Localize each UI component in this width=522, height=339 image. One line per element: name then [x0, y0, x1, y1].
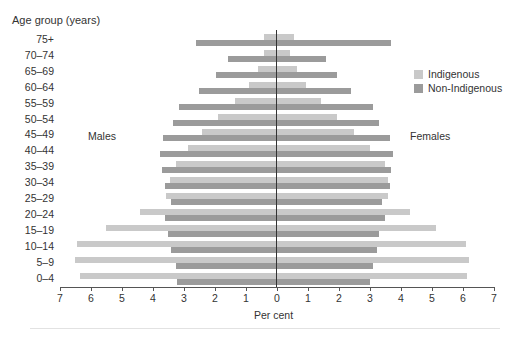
x-tick	[463, 287, 464, 291]
age-label: 50–54	[8, 113, 54, 125]
age-label: 5–9	[8, 256, 54, 268]
bar-female-non-indigenous	[277, 104, 373, 110]
x-tick	[215, 287, 216, 291]
age-label: 30–34	[8, 176, 54, 188]
x-tick-label: 4	[391, 292, 411, 304]
legend: Indigenous Non-Indigenous	[414, 67, 502, 95]
x-tick-label: 5	[112, 292, 132, 304]
bar-female-non-indigenous	[277, 263, 373, 269]
bar-female-non-indigenous	[277, 215, 386, 221]
x-tick-label: 1	[298, 292, 318, 304]
x-tick	[370, 287, 371, 291]
bar-male-non-indigenous	[171, 199, 276, 205]
bar-male-non-indigenous	[179, 104, 277, 110]
bar-female-non-indigenous	[277, 40, 392, 46]
center-axis-line	[276, 30, 277, 288]
females-label: Females	[410, 130, 450, 142]
bar-male-non-indigenous	[173, 120, 277, 126]
age-label: 60–64	[8, 81, 54, 93]
x-tick	[432, 287, 433, 291]
indigenous-swatch-icon	[414, 70, 423, 79]
bar-male-non-indigenous	[168, 231, 277, 237]
x-tick	[308, 287, 309, 291]
age-label: 40–44	[8, 144, 54, 156]
x-tick	[277, 287, 278, 291]
bar-male-non-indigenous	[171, 247, 276, 253]
x-tick-label: 3	[360, 292, 380, 304]
bar-female-non-indigenous	[277, 231, 379, 237]
age-label: 65–69	[8, 65, 54, 77]
bar-male-non-indigenous	[160, 151, 276, 157]
x-tick	[494, 287, 495, 291]
bar-female-non-indigenous	[277, 279, 370, 285]
legend-item-non-indigenous: Non-Indigenous	[414, 81, 502, 95]
age-label: 15–19	[8, 224, 54, 236]
bottom-rule	[30, 328, 500, 329]
bar-female-non-indigenous	[277, 151, 393, 157]
bar-male-non-indigenous	[199, 88, 277, 94]
x-tick	[60, 287, 61, 291]
bar-male-non-indigenous	[165, 215, 277, 221]
bar-female-non-indigenous	[277, 72, 337, 78]
x-tick-label: 2	[329, 292, 349, 304]
age-label: 45–49	[8, 128, 54, 140]
bar-female-non-indigenous	[277, 183, 390, 189]
bar-male-non-indigenous	[216, 72, 276, 78]
legend-label-non-indigenous: Non-Indigenous	[428, 82, 502, 94]
x-tick-label: 6	[81, 292, 101, 304]
age-label: 55–59	[8, 97, 54, 109]
x-tick-label: 7	[484, 292, 504, 304]
age-label: 20–24	[8, 208, 54, 220]
bar-male-non-indigenous	[162, 167, 277, 173]
age-label: 70–74	[8, 49, 54, 61]
x-tick-label: 6	[453, 292, 473, 304]
males-label: Males	[88, 130, 116, 142]
age-label: 25–29	[8, 192, 54, 204]
bar-male-non-indigenous	[176, 263, 277, 269]
bar-male-non-indigenous	[165, 183, 277, 189]
bar-female-non-indigenous	[277, 56, 327, 62]
x-tick-label: 3	[174, 292, 194, 304]
x-tick	[122, 287, 123, 291]
legend-item-indigenous: Indigenous	[414, 67, 502, 81]
age-label: 10–14	[8, 240, 54, 252]
bar-male-non-indigenous	[177, 279, 276, 285]
x-axis-title: Per cent	[254, 309, 293, 321]
non-indigenous-swatch-icon	[414, 84, 423, 93]
bar-female-non-indigenous	[277, 120, 379, 126]
bar-male-non-indigenous	[228, 56, 276, 62]
bar-male-non-indigenous	[196, 40, 277, 46]
x-tick	[401, 287, 402, 291]
x-tick	[184, 287, 185, 291]
bar-female-non-indigenous	[277, 88, 351, 94]
x-tick	[246, 287, 247, 291]
bar-female-non-indigenous	[277, 167, 392, 173]
bar-male-non-indigenous	[163, 135, 276, 141]
x-tick-label: 5	[422, 292, 442, 304]
x-tick-label: 4	[143, 292, 163, 304]
bar-female-non-indigenous	[277, 135, 390, 141]
x-tick-label: 0	[267, 292, 287, 304]
age-label: 75+	[8, 33, 54, 45]
x-tick-label: 2	[205, 292, 225, 304]
x-tick	[91, 287, 92, 291]
x-tick	[153, 287, 154, 291]
y-axis-title: Age group (years)	[12, 14, 100, 26]
bar-female-non-indigenous	[277, 199, 382, 205]
x-tick-label: 1	[236, 292, 256, 304]
age-label: 35–39	[8, 160, 54, 172]
legend-label-indigenous: Indigenous	[428, 68, 479, 80]
age-label: 0–4	[8, 272, 54, 284]
x-tick	[339, 287, 340, 291]
x-tick-label: 7	[50, 292, 70, 304]
bar-female-non-indigenous	[277, 247, 378, 253]
